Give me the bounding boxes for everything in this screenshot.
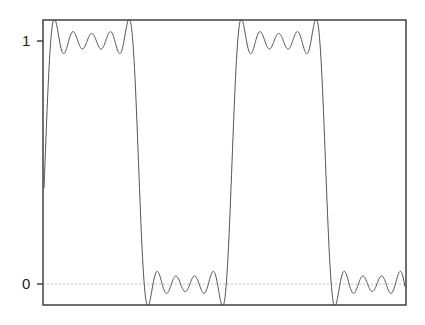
y-tick-label-0: 0 bbox=[22, 275, 30, 292]
chart-canvas bbox=[0, 0, 425, 325]
waveform-line bbox=[44, 20, 405, 305]
y-tick-label-1: 1 bbox=[22, 32, 30, 49]
plot-frame bbox=[43, 20, 406, 305]
